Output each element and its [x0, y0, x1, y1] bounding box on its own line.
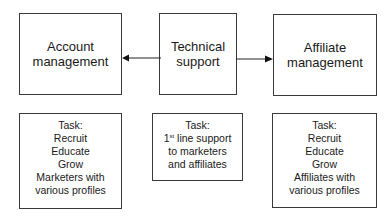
arrow-to-account — [120, 52, 162, 64]
arrow-to-affiliate — [236, 53, 274, 65]
task-line: and affiliates — [168, 158, 227, 171]
task-line: various profiles — [35, 184, 106, 197]
task-line: various profiles — [289, 184, 360, 197]
technical-task-box: Task: 1st line support to marketers and … — [152, 113, 243, 181]
task-line: Grow — [312, 158, 337, 171]
task-title: Task: — [58, 119, 83, 132]
task-title: Task: — [185, 119, 210, 132]
task-line: Recruit — [308, 132, 341, 145]
affiliate-label-line2: management — [287, 55, 363, 70]
task-line: Educate — [51, 145, 90, 158]
account-label-line1: Account — [47, 39, 94, 54]
task-line: Grow — [58, 158, 83, 171]
affiliate-task-box: Task: Recruit Educate Grow Affiliates wi… — [272, 113, 377, 208]
task-line-rest: line support — [174, 132, 231, 144]
technical-label-line1: Technical — [171, 39, 225, 54]
affiliate-management-box: Affiliate management — [273, 14, 377, 96]
account-management-box: Account management — [19, 13, 122, 95]
affiliate-label-line1: Affiliate — [304, 40, 346, 55]
account-label-line2: management — [33, 54, 109, 69]
task-line: 1st line support — [164, 132, 232, 145]
task-line: Recruit — [54, 132, 87, 145]
technical-support-box: Technical support — [159, 13, 237, 95]
task-line: Educate — [305, 145, 344, 158]
task-line: to marketers — [168, 145, 226, 158]
task-line: Marketers with — [36, 171, 104, 184]
task-line: Affiliates with — [294, 171, 355, 184]
account-task-box: Task: Recruit Educate Grow Marketers wit… — [19, 113, 122, 209]
technical-label-line2: support — [176, 54, 219, 69]
task-title: Task: — [312, 119, 337, 132]
